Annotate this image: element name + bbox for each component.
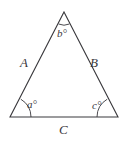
angle-label-c: c° [92, 100, 101, 111]
triangle-diagram-svg [0, 0, 128, 142]
angle-label-a: a° [27, 99, 37, 110]
side-label-a: A [20, 56, 28, 69]
side-label-b: B [90, 56, 98, 69]
angle-label-b: b° [57, 28, 67, 39]
angle-arc-b-icon [59, 24, 70, 25]
triangle-figure: A B C a° b° c° [0, 0, 128, 142]
side-label-c: C [59, 123, 68, 136]
